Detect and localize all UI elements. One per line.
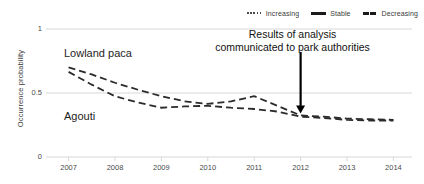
x-tick-label-2007: 2007: [49, 163, 89, 172]
x-tick-label-2011: 2011: [234, 163, 274, 172]
x-tick-label-2014: 2014: [373, 163, 413, 172]
x-tick-marks: [69, 157, 394, 161]
y-tick-label-1: 1: [22, 24, 42, 33]
annotation-arrow: [296, 52, 305, 113]
annotation-line-2: communicated to park authorities: [190, 41, 395, 54]
chart-figure: Increasing Stable Decreasing 1 0.5 0 200…: [0, 0, 424, 184]
series-line-lowland-paca: [69, 67, 394, 119]
x-tick-label-2012: 2012: [281, 163, 321, 172]
y-tick-label-0: 0: [22, 152, 42, 161]
series-lines: [69, 67, 394, 120]
series-line-agouti: [69, 72, 394, 121]
series-label-agouti: Agouti: [64, 110, 95, 122]
plot-area: 1 0.5 0 2007 2008 2009 2010 2011 2012 20…: [0, 0, 424, 184]
annotation-text: Results of analysis communicated to park…: [190, 28, 395, 53]
x-tick-label-2009: 2009: [141, 163, 181, 172]
y-axis-title: Occurrence probability: [16, 29, 25, 149]
annotation-line-1: Results of analysis: [190, 28, 395, 41]
series-label-lowland-paca: Lowland paca: [64, 47, 132, 59]
x-tick-label-2010: 2010: [188, 163, 228, 172]
x-tick-label-2013: 2013: [327, 163, 367, 172]
x-tick-label-2008: 2008: [95, 163, 135, 172]
arrow-head-icon: [296, 105, 305, 113]
y-tick-label-0-5: 0.5: [22, 88, 42, 97]
